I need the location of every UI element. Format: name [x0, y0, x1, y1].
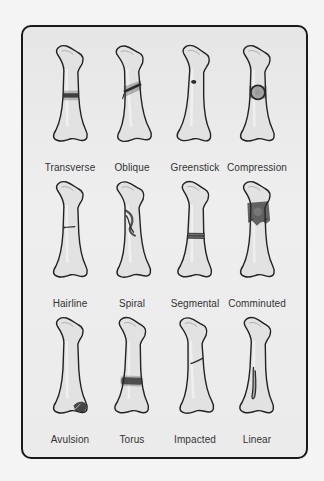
bone-compression-icon [222, 33, 292, 157]
fracture-compression: Compression [222, 33, 292, 173]
bone-transverse-icon [35, 33, 105, 157]
fracture-label: Linear [212, 434, 302, 445]
fracture-transverse: Transverse [35, 33, 105, 173]
bone-segmental-icon [160, 169, 230, 293]
bone-spiral-icon [97, 169, 167, 293]
bone-oblique-icon [97, 33, 167, 157]
bone-hairline-icon [35, 169, 105, 293]
bone-avulsion-icon [35, 305, 105, 429]
fracture-greenstick: Greenstick [160, 33, 230, 173]
bone-comminuted-icon [222, 169, 292, 293]
bone-greenstick-icon [160, 33, 230, 157]
fracture-avulsion: Avulsion [35, 305, 105, 445]
fracture-oblique: Oblique [97, 33, 167, 173]
fracture-hairline: Hairline [35, 169, 105, 309]
fracture-linear: Linear [222, 305, 292, 445]
fracture-spiral: Spiral [97, 169, 167, 309]
fracture-segmental: Segmental [160, 169, 230, 309]
fracture-comminuted: Comminuted [222, 169, 292, 309]
diagram-frame: Transverse Oblique [21, 25, 308, 459]
fracture-grid: Transverse Oblique [23, 27, 306, 457]
bone-impacted-icon [160, 305, 230, 429]
bone-torus-icon [97, 305, 167, 429]
bone-linear-icon [222, 305, 292, 429]
fracture-torus: Torus [97, 305, 167, 445]
fracture-impacted: Impacted [160, 305, 230, 445]
